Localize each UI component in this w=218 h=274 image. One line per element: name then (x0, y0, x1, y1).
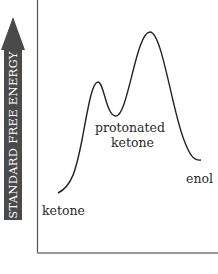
energy-diagram-graphic (0, 0, 218, 274)
energy-profile-curve (58, 32, 201, 193)
state-label-protonated-ketone: ketone (111, 136, 154, 150)
y-axis-label-text: STANDARD FREE ENERGY (6, 51, 20, 219)
state-label-protonated: protonated (95, 121, 165, 135)
energy-diagram: STANDARD FREE ENERGY ketone protonated k… (0, 0, 218, 274)
state-label-enol: enol (186, 172, 213, 186)
state-label-ketone: ketone (42, 204, 85, 218)
